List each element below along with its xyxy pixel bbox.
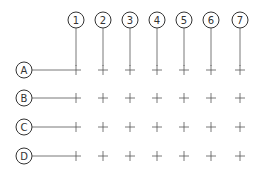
- grid-diagram: 1234567ABCD: [0, 0, 261, 172]
- grid-intersection-mark: [235, 65, 245, 75]
- grid-intersection-mark: [98, 122, 108, 132]
- grid-intersection-mark: [179, 93, 189, 103]
- grid-intersection-mark: [235, 151, 245, 161]
- grid-intersection-mark: [179, 122, 189, 132]
- grid-intersection-mark: [235, 93, 245, 103]
- column-bubble-6: 6: [203, 12, 219, 66]
- column-label: 5: [181, 15, 187, 26]
- grid-intersection-mark: [125, 122, 135, 132]
- grid-intersection-mark: [152, 151, 162, 161]
- row-label: C: [21, 122, 28, 133]
- row-bubble-D: D: [16, 148, 71, 164]
- column-label: 7: [237, 15, 243, 26]
- grid-intersection-mark: [179, 151, 189, 161]
- row-bubble-B: B: [16, 90, 71, 106]
- grid-intersection-mark: [206, 151, 216, 161]
- grid-intersection-mark: [125, 65, 135, 75]
- column-bubble-7: 7: [232, 12, 248, 66]
- grid-intersection-mark: [206, 93, 216, 103]
- grid-intersection-mark: [98, 65, 108, 75]
- grid-intersection-mark: [125, 151, 135, 161]
- grid-intersection-mark: [152, 93, 162, 103]
- column-bubble-1: 1: [68, 12, 84, 66]
- grid-intersection-mark: [98, 151, 108, 161]
- column-label: 3: [127, 15, 133, 26]
- grid-intersection-mark: [206, 122, 216, 132]
- grid-intersection-mark: [152, 65, 162, 75]
- column-bubble-4: 4: [149, 12, 165, 66]
- grid-intersection-mark: [71, 122, 81, 132]
- column-bubble-5: 5: [176, 12, 192, 66]
- column-label: 4: [154, 15, 160, 26]
- column-label: 1: [73, 15, 79, 26]
- column-label: 2: [100, 15, 106, 26]
- row-label: B: [21, 93, 28, 104]
- column-label: 6: [208, 15, 214, 26]
- grid-intersection-mark: [71, 151, 81, 161]
- row-label: A: [21, 65, 28, 76]
- grid-intersection-mark: [98, 93, 108, 103]
- grid-intersection-mark: [235, 122, 245, 132]
- row-bubble-A: A: [16, 62, 71, 78]
- grid-intersection-mark: [152, 122, 162, 132]
- grid-intersection-mark: [125, 93, 135, 103]
- grid-intersection-mark: [179, 65, 189, 75]
- row-bubble-C: C: [16, 119, 71, 135]
- grid-intersection-mark: [71, 65, 81, 75]
- column-bubble-3: 3: [122, 12, 138, 66]
- column-bubble-2: 2: [95, 12, 111, 66]
- grid-intersection-mark: [206, 65, 216, 75]
- row-label: D: [20, 151, 28, 162]
- grid-intersection-mark: [71, 93, 81, 103]
